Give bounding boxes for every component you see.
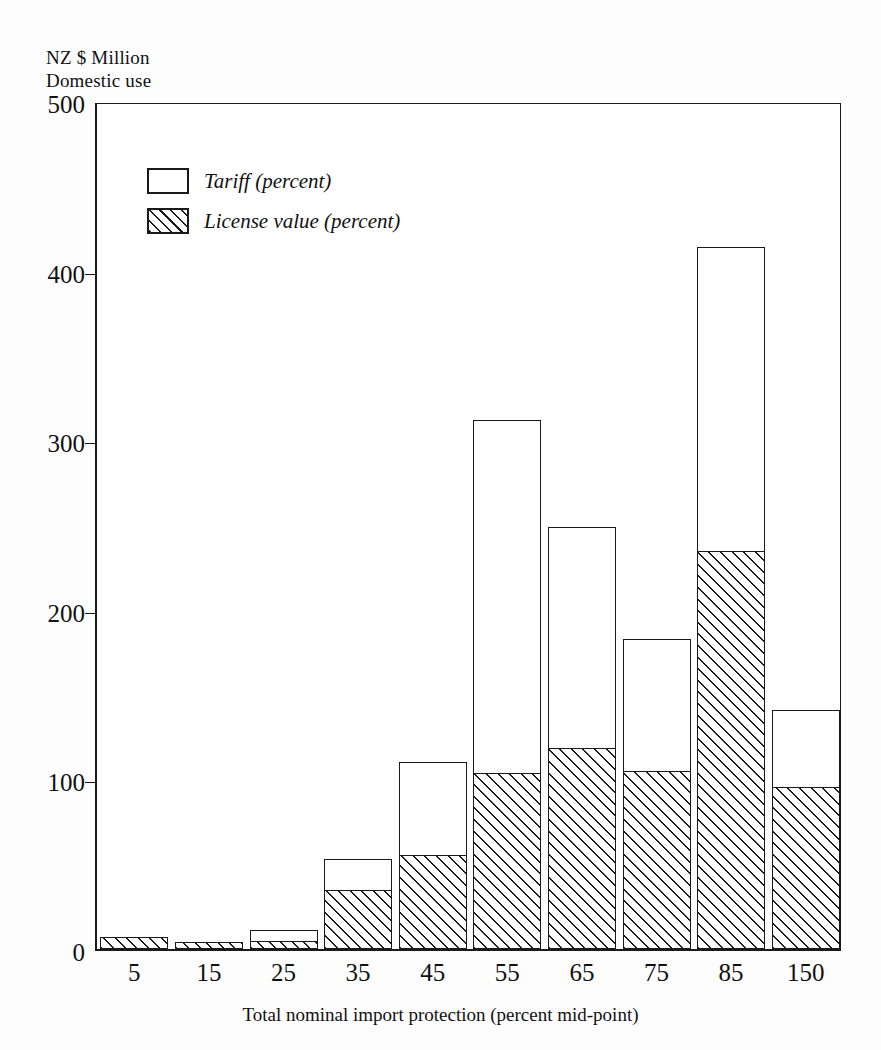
x-axis-tick-label: 75	[644, 960, 669, 985]
y-axis-tick-label: 300	[48, 431, 86, 456]
y-axis-tick-label: 100	[48, 770, 86, 795]
bar-segment-license-value	[548, 747, 616, 949]
chart-figure: NZ $ Million Domestic use 01002003004005…	[0, 0, 881, 1050]
bar-segment-license-value	[324, 890, 392, 949]
bar-segment-tariff	[697, 247, 765, 552]
legend-swatch-tariff	[147, 168, 189, 194]
y-axis-tick	[85, 274, 97, 275]
bar	[473, 420, 541, 949]
bar-segment-tariff	[324, 859, 392, 891]
bar-segment-tariff	[548, 527, 616, 749]
legend-item-license: License value (percent)	[147, 206, 400, 236]
legend-label-tariff: Tariff (percent)	[204, 169, 331, 194]
x-axis-tick-label: 5	[128, 960, 141, 985]
bar-segment-license-value	[175, 942, 243, 949]
x-axis-tick-label: 25	[271, 960, 296, 985]
y-axis-tick	[85, 613, 97, 614]
bar	[548, 527, 616, 949]
bar	[324, 859, 392, 949]
bar-segment-license-value	[100, 937, 168, 949]
bar	[100, 937, 168, 949]
bar-segment-tariff	[772, 710, 840, 788]
legend-swatch-license	[147, 208, 189, 234]
bar-segment-tariff	[623, 639, 691, 773]
bar-segment-tariff	[473, 420, 541, 774]
y-axis-title: NZ $ Million Domestic use	[46, 46, 151, 92]
x-axis-tick-label: 150	[787, 960, 825, 985]
bar	[697, 247, 765, 949]
y-axis-tick	[85, 782, 97, 783]
y-axis-tick-label: 400	[48, 261, 86, 286]
bar	[772, 710, 840, 949]
x-axis-tick-label: 15	[196, 960, 221, 985]
y-axis-tick-label: 200	[48, 600, 86, 625]
bar-segment-license-value	[697, 550, 765, 949]
bar-segment-license-value	[772, 786, 840, 949]
bar-segment-license-value	[473, 773, 541, 949]
plot-area: 0100200300400500 51525354555657585150 Ta…	[95, 103, 841, 951]
y-axis-tick-label: 500	[48, 92, 86, 117]
y-axis-tick	[85, 443, 97, 444]
bar	[175, 942, 243, 949]
x-axis-title: Total nominal import protection (percent…	[0, 1004, 881, 1026]
x-axis-tick-label: 85	[719, 960, 744, 985]
bar-segment-license-value	[623, 771, 691, 949]
x-axis-tick-label: 35	[346, 960, 371, 985]
legend-item-tariff: Tariff (percent)	[147, 166, 400, 196]
y-axis-tick-label: 0	[73, 940, 86, 965]
bar-segment-tariff	[250, 930, 318, 942]
x-axis-tick-label: 55	[495, 960, 520, 985]
bar	[623, 639, 691, 949]
bar	[399, 762, 467, 949]
bar-segment-license-value	[399, 854, 467, 949]
bar-segment-tariff	[399, 762, 467, 855]
x-axis-tick-label: 45	[420, 960, 445, 985]
bar	[250, 930, 318, 949]
legend-label-license: License value (percent)	[204, 209, 400, 234]
legend: Tariff (percent) License value (percent)	[147, 166, 400, 246]
x-axis-tick-label: 65	[569, 960, 594, 985]
